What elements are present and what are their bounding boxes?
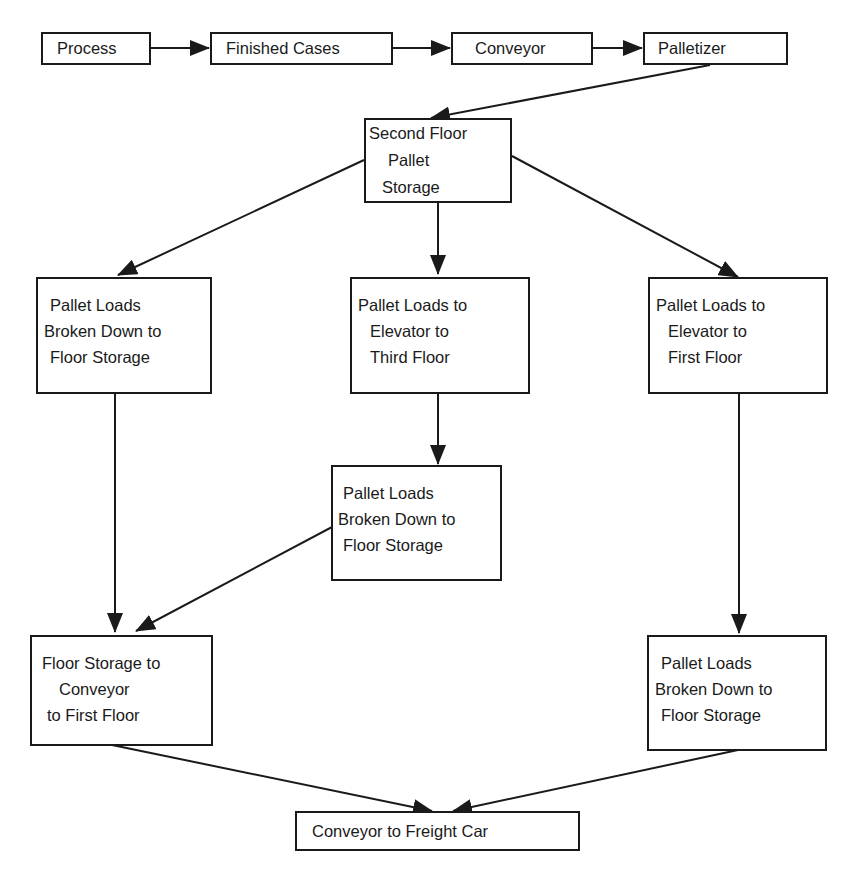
- arrow-broken-down-middle-to-floor-storage: [136, 518, 349, 631]
- node-label: Elevator to: [650, 318, 826, 344]
- node-label: Broken Down to: [38, 318, 210, 344]
- node-label: Conveyor: [32, 676, 211, 702]
- node-pallet-loads-broken-down-middle: Pallet Loads Broken Down to Floor Storag…: [331, 465, 502, 581]
- node-label: Conveyor to Freight Car: [312, 813, 578, 849]
- node-label: Pallet Loads: [38, 292, 210, 318]
- node-conveyor: Conveyor: [451, 32, 593, 65]
- node-pallet-loads-elevator-third-floor: Pallet Loads to Elevator to Third Floor: [350, 277, 530, 394]
- node-label: Pallet Loads: [649, 650, 825, 676]
- node-label: Floor Storage: [333, 532, 500, 558]
- node-conveyor-to-freight-car: Conveyor to Freight Car: [295, 811, 580, 851]
- node-finished-cases: Finished Cases: [210, 32, 393, 65]
- arrow-floor-storage-to-freight-car: [112, 745, 432, 811]
- node-label: Floor Storage: [38, 344, 210, 370]
- node-label: Pallet Loads to: [650, 292, 826, 318]
- arrow-palletizer-to-second-floor: [431, 65, 710, 118]
- node-label: Broken Down to: [649, 676, 825, 702]
- node-label: to First Floor: [32, 702, 211, 728]
- node-label: Conveyor: [475, 34, 591, 63]
- node-label: Storage: [366, 174, 510, 201]
- node-label: Floor Storage to: [32, 650, 211, 676]
- node-label: Process: [57, 34, 149, 63]
- arrow-broken-down-right-to-freight-car: [453, 750, 738, 811]
- node-palletizer: Palletizer: [643, 32, 788, 65]
- node-label: Floor Storage: [649, 702, 825, 728]
- node-label: Broken Down to: [333, 506, 500, 532]
- node-label: First Floor: [650, 344, 826, 370]
- flowchart-canvas: Process Finished Cases Conveyor Palletiz…: [0, 0, 859, 880]
- node-label: Pallet Loads: [333, 480, 500, 506]
- node-pallet-loads-broken-down-right: Pallet Loads Broken Down to Floor Storag…: [647, 635, 827, 751]
- node-label: Pallet: [366, 147, 510, 174]
- node-label: Second Floor: [366, 120, 510, 147]
- node-process: Process: [41, 32, 151, 65]
- node-second-floor-pallet-storage: Second Floor Pallet Storage: [364, 118, 512, 203]
- node-pallet-loads-elevator-first-floor: Pallet Loads to Elevator to First Floor: [648, 277, 828, 394]
- node-floor-storage-to-conveyor: Floor Storage to Conveyor to First Floor: [30, 635, 213, 746]
- node-label: Finished Cases: [226, 34, 391, 63]
- node-label: Third Floor: [352, 344, 528, 370]
- node-label: Palletizer: [658, 34, 786, 63]
- arrow-second-floor-to-broken-down-left: [118, 160, 364, 275]
- node-pallet-loads-broken-down-left: Pallet Loads Broken Down to Floor Storag…: [36, 277, 212, 394]
- arrow-second-floor-to-elevator-first: [512, 156, 738, 277]
- node-label: Elevator to: [352, 318, 528, 344]
- node-label: Pallet Loads to: [352, 292, 528, 318]
